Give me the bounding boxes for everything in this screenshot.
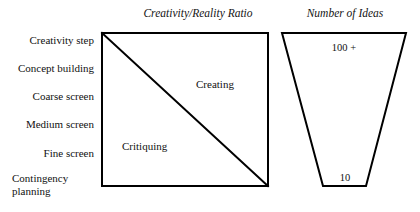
region-label-critiquing: Critiquing (122, 140, 167, 153)
creativity-reality-diagonal (102, 33, 268, 186)
funnel-bottom-count: 10 (324, 172, 366, 184)
funnel-top-count: 100 + (304, 42, 384, 54)
number-of-ideas-funnel (282, 33, 406, 186)
region-label-creating: Creating (196, 78, 234, 91)
creativity-funnel-figure: Creativity/Reality Ratio Number of Ideas… (0, 0, 420, 212)
